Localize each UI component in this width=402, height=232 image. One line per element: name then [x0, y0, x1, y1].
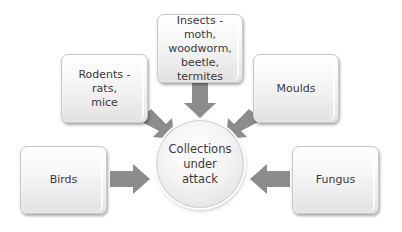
node-rodents: Rodents - rats, mice	[61, 54, 148, 123]
node-birds: Birds	[20, 146, 107, 214]
node-insects: Insects - moth, woodworm, beetle, termit…	[157, 14, 243, 83]
center-line-3: attack	[169, 172, 232, 187]
node-rodents-line-2: mice	[66, 96, 143, 110]
center-line-1: Collections	[169, 142, 232, 157]
node-insects-label: Insects - moth, woodworm, beetle, termit…	[162, 14, 238, 84]
node-rodents-label: Rodents - rats, mice	[66, 68, 143, 110]
center-node-label: Collections under attack	[169, 142, 232, 187]
node-moulds-label: Moulds	[277, 82, 316, 96]
arrow-birds-to-center	[110, 164, 150, 194]
center-node: Collections under attack	[156, 120, 244, 208]
arrow-fungus-to-center	[250, 164, 290, 194]
node-birds-label: Birds	[50, 173, 78, 187]
node-insects-line-1: Insects - moth,	[162, 14, 238, 42]
node-insects-line-4: termites	[162, 70, 238, 84]
node-moulds: Moulds	[253, 54, 339, 123]
node-fungus: Fungus	[292, 146, 379, 214]
node-insects-line-2: woodworm,	[162, 42, 238, 56]
node-rodents-line-1: Rodents - rats,	[66, 68, 143, 96]
node-insects-line-3: beetle,	[162, 56, 238, 70]
center-line-2: under	[169, 157, 232, 172]
arrow-insects-to-center	[184, 82, 216, 118]
node-fungus-label: Fungus	[316, 173, 355, 187]
